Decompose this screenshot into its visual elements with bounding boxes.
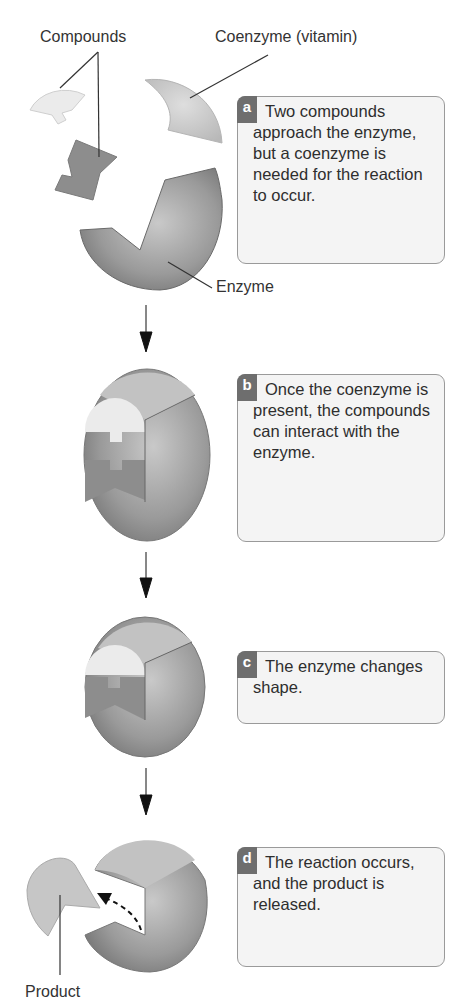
step-a-text: Two compounds approach the enzyme, but a… [253, 101, 436, 206]
product-label: Product [25, 983, 80, 1001]
step-b-badge: b [237, 374, 257, 401]
panel-c-art [85, 617, 205, 757]
step-c-text: The enzyme changes shape. [253, 656, 436, 698]
compounds-label: Compounds [40, 28, 126, 46]
step-d-badge: d [237, 847, 257, 874]
panel-a-art [30, 52, 268, 290]
enzyme-label: Enzyme [216, 278, 274, 296]
step-b-text: Once the coenzyme is present, the compou… [253, 379, 436, 463]
step-c-badge: c [237, 651, 257, 678]
step-a-box: a Two compounds approach the enzyme, but… [237, 96, 445, 264]
step-a-badge: a [237, 96, 257, 123]
panel-b-art [84, 369, 210, 541]
coenzyme-label: Coenzyme (vitamin) [215, 28, 357, 46]
arrow-down-icon [140, 768, 152, 815]
step-d-text: The reaction occurs, and the product is … [253, 852, 436, 915]
step-c-box: c The enzyme changes shape. [237, 651, 445, 724]
panel-d-art [27, 840, 207, 975]
arrow-down-icon [140, 552, 152, 598]
step-b-box: b Once the coenzyme is present, the comp… [237, 374, 445, 542]
arrow-down-icon [140, 305, 152, 352]
step-d-box: d The reaction occurs, and the product i… [237, 847, 445, 967]
